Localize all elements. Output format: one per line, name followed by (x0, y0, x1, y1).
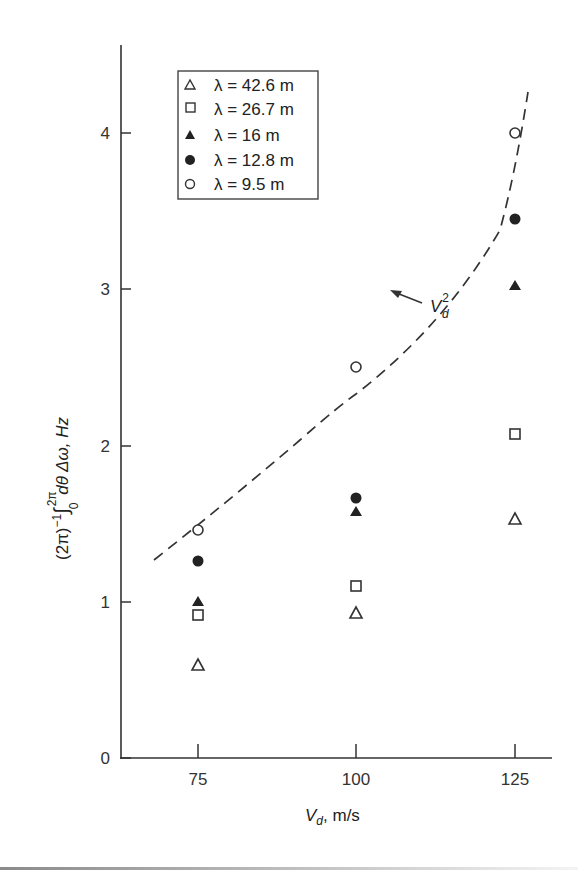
y-tick-label: 2 (101, 437, 110, 456)
scatter-chart: 0 1 2 3 4 75 100 125 Vd, m/s (2π)−1∫2π0d… (0, 0, 578, 872)
svg-text:λ = 26.7 m: λ = 26.7 m (214, 100, 294, 119)
page-bottom-rule (0, 867, 578, 870)
y-tick-label: 1 (101, 593, 110, 612)
data-point-filled-circle (510, 214, 521, 225)
x-tick-label: 125 (501, 770, 529, 789)
data-point-open-square (193, 610, 203, 620)
data-point-filled-triangle (192, 596, 204, 606)
y-tick-label: 0 (101, 749, 110, 768)
y-tick-label: 4 (101, 124, 110, 143)
data-point-open-triangle (192, 659, 204, 670)
data-point-open-triangle (350, 607, 362, 618)
data-point-open-square (351, 581, 361, 591)
x-tick-label: 100 (342, 770, 370, 789)
legend: λ = 42.6 m λ = 26.7 m λ = 16 m λ = 12.8 … (178, 71, 318, 199)
y-tick-label: 3 (101, 280, 110, 299)
x-tick-label: 75 (189, 770, 208, 789)
data-point-filled-triangle (350, 506, 362, 516)
data-point-filled-circle (193, 556, 204, 567)
data-point-open-triangle (509, 513, 521, 524)
x-ticks (198, 744, 515, 758)
svg-text:λ = 12.8 m: λ = 12.8 m (214, 151, 294, 170)
x-tick-labels: 75 100 125 (189, 770, 530, 789)
y-axis-title: (2π)−1∫2π0dθ Δω, Hz (45, 417, 81, 560)
series-lambda-26-7 (193, 429, 520, 620)
svg-text:λ = 9.5 m: λ = 9.5 m (214, 175, 284, 194)
curve-annotation: V2d (390, 290, 449, 321)
data-point-open-circle (351, 362, 361, 372)
svg-text:λ = 16 m: λ = 16 m (214, 126, 280, 145)
data-point-filled-circle (351, 493, 362, 504)
filled-circle-icon (185, 155, 195, 165)
y-tick-labels: 0 1 2 3 4 (101, 124, 110, 768)
svg-text:λ = 42.6 m: λ = 42.6 m (214, 76, 294, 95)
data-point-open-circle (193, 525, 203, 535)
y-ticks (121, 133, 131, 758)
data-point-open-circle (510, 128, 520, 138)
series-lambda-16 (192, 280, 521, 606)
data-point-open-square (510, 429, 520, 439)
arrowhead-icon (390, 290, 402, 298)
svg-text:(2π)−1∫2π0dθ Δω, Hz: (2π)−1∫2π0dθ Δω, Hz (45, 417, 81, 560)
data-point-filled-triangle (509, 280, 521, 290)
x-axis-title: Vd, m/s (305, 806, 360, 828)
